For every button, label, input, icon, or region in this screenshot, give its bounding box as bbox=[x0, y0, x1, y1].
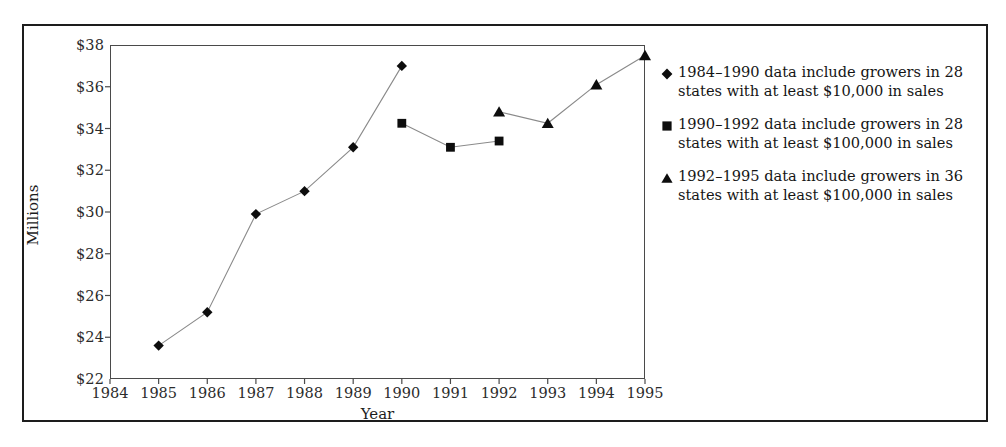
legend-line-1: 1990–1992 data include growers in 28 bbox=[678, 115, 963, 132]
legend-item-label: 1984–1990 data include growers in 28 sta… bbox=[678, 62, 980, 101]
legend-line-2: states with at least $100,000 in sales bbox=[678, 134, 953, 151]
legend-item: 1990–1992 data include growers in 28 sta… bbox=[660, 114, 980, 153]
legend-line-1: 1992–1995 data include growers in 36 bbox=[678, 167, 963, 184]
diamond-marker-icon bbox=[660, 67, 676, 81]
legend-line-1: 1984–1990 data include growers in 28 bbox=[678, 63, 963, 80]
chart-figure: $22$24$26$28$30$32$34$36$38 198419851986… bbox=[0, 0, 1006, 447]
legend-line-2: states with at least $10,000 in sales bbox=[678, 82, 944, 99]
legend-item-label: 1990–1992 data include growers in 28 sta… bbox=[678, 114, 980, 153]
legend-item: 1984–1990 data include growers in 28 sta… bbox=[660, 62, 980, 101]
legend-item: 1992–1995 data include growers in 36 sta… bbox=[660, 166, 980, 205]
legend-line-2: states with at least $100,000 in sales bbox=[678, 186, 953, 203]
legend-item-label: 1992–1995 data include growers in 36 sta… bbox=[678, 166, 980, 205]
y-axis-title: Millions bbox=[24, 160, 42, 270]
x-tick-label: 1995 bbox=[615, 386, 675, 401]
chart-legend: 1984–1990 data include growers in 28 sta… bbox=[660, 62, 980, 217]
square-marker-icon bbox=[660, 119, 676, 133]
x-axis-title: Year bbox=[110, 405, 645, 423]
triangle-marker-icon bbox=[660, 171, 676, 185]
